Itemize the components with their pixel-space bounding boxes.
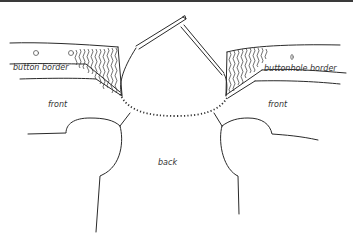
right-front-body (214, 113, 318, 214)
label-front-right: front (268, 100, 288, 109)
label-front-left: front (48, 100, 68, 109)
buttonhole-icon (291, 55, 293, 60)
button-icon (34, 51, 39, 56)
neckline-stitches (120, 94, 228, 116)
button-border-hatching (75, 48, 117, 93)
button-icon (69, 51, 74, 56)
left-front-body (28, 113, 130, 232)
label-button-border: button border (13, 63, 69, 72)
label-back: back (158, 158, 177, 167)
knitting-needles (121, 16, 227, 96)
knitting-diagram: button border front buttonhole border fr… (0, 0, 353, 244)
label-buttonhole-border: buttonhole border (264, 64, 337, 73)
